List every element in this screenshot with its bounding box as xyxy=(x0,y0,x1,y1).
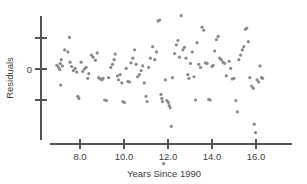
data-point xyxy=(92,56,95,59)
data-point xyxy=(159,93,162,96)
data-point xyxy=(160,97,163,100)
y-axis-title: Residuals xyxy=(4,57,15,99)
data-point xyxy=(241,48,244,51)
x-tick-label-12: 12.0 xyxy=(159,151,178,162)
data-point xyxy=(125,67,128,70)
data-point xyxy=(209,98,212,101)
data-point xyxy=(164,78,167,81)
data-point xyxy=(217,35,220,38)
data-point xyxy=(228,60,231,63)
data-point xyxy=(167,101,170,104)
data-point xyxy=(197,63,200,66)
data-point xyxy=(131,57,134,60)
data-point xyxy=(180,14,183,17)
data-point xyxy=(147,66,150,69)
data-point xyxy=(191,50,194,53)
data-point xyxy=(70,65,73,68)
x-axis-title: Years Since 1990 xyxy=(127,168,201,179)
data-point xyxy=(170,125,173,128)
data-point xyxy=(102,77,105,80)
data-point xyxy=(135,63,138,66)
data-point xyxy=(202,29,205,32)
data-point xyxy=(171,76,174,79)
data-point xyxy=(254,131,257,134)
data-point xyxy=(225,74,228,77)
data-point xyxy=(133,48,136,51)
data-point xyxy=(58,68,61,71)
data-point xyxy=(75,71,78,74)
data-point xyxy=(212,64,215,67)
data-point xyxy=(118,73,121,76)
data-point xyxy=(258,64,261,67)
data-point xyxy=(120,81,123,84)
data-point xyxy=(85,66,88,69)
data-point xyxy=(94,59,97,62)
data-point xyxy=(128,80,131,83)
data-point xyxy=(87,72,90,75)
data-point xyxy=(192,75,195,78)
data-point xyxy=(86,77,89,80)
y-tick-label-zero: 0 xyxy=(27,64,32,75)
data-point xyxy=(66,50,69,53)
data-point xyxy=(242,45,245,48)
data-point xyxy=(80,61,83,64)
data-point xyxy=(194,98,197,101)
y-axis-group: 0 Residuals xyxy=(4,16,47,140)
data-point xyxy=(113,58,116,61)
data-point xyxy=(61,64,64,67)
data-point xyxy=(59,62,62,65)
data-point xyxy=(111,63,114,66)
data-point xyxy=(229,67,232,70)
data-point xyxy=(183,46,186,49)
data-point xyxy=(140,69,143,72)
data-point xyxy=(158,18,161,21)
data-point xyxy=(69,61,72,64)
data-point xyxy=(109,66,112,69)
data-point xyxy=(143,81,146,84)
data-point xyxy=(236,110,239,113)
data-point xyxy=(146,100,149,103)
data-point xyxy=(175,43,178,46)
x-tick-label-10: 10.0 xyxy=(115,151,134,162)
data-point xyxy=(247,40,250,43)
x-tick-label-8: 8.0 xyxy=(73,151,86,162)
data-point xyxy=(63,48,66,51)
data-point xyxy=(234,99,237,102)
data-point xyxy=(161,100,164,103)
data-point xyxy=(155,50,158,53)
data-point xyxy=(162,162,165,165)
residual-plot: 0 Residuals 8.0 10.0 12.0 14.0 16.0 Year… xyxy=(0,0,307,184)
data-point xyxy=(237,58,240,61)
data-point xyxy=(153,58,156,61)
x-tick-label-14: 14.0 xyxy=(203,151,222,162)
data-point xyxy=(186,73,189,76)
data-point xyxy=(245,26,248,29)
data-point xyxy=(105,99,108,102)
data-point xyxy=(232,77,235,80)
data-point xyxy=(206,62,209,65)
data-point xyxy=(117,78,120,81)
data-point xyxy=(195,41,198,44)
data-point xyxy=(176,39,179,42)
data-point xyxy=(199,66,202,69)
data-point xyxy=(96,51,99,54)
data-point xyxy=(184,57,187,60)
data-point xyxy=(114,53,117,56)
data-point xyxy=(178,56,181,59)
data-point xyxy=(215,38,218,41)
data-point xyxy=(187,77,190,80)
data-point xyxy=(239,53,242,56)
data-point xyxy=(107,76,110,79)
data-point xyxy=(248,76,251,79)
data-point xyxy=(60,58,63,61)
data-point xyxy=(201,26,204,29)
data-points-layer xyxy=(55,14,264,165)
data-point xyxy=(77,97,80,100)
data-point xyxy=(138,73,141,76)
data-point xyxy=(129,61,132,64)
data-point xyxy=(257,80,260,83)
data-point xyxy=(74,67,77,70)
data-point xyxy=(169,106,172,109)
data-point xyxy=(149,57,152,60)
data-point xyxy=(144,95,147,98)
